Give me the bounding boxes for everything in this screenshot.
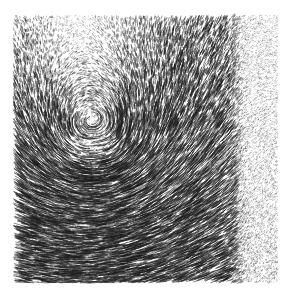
- vector-field-canvas: [0, 0, 292, 301]
- vector-field-figure: [0, 0, 292, 301]
